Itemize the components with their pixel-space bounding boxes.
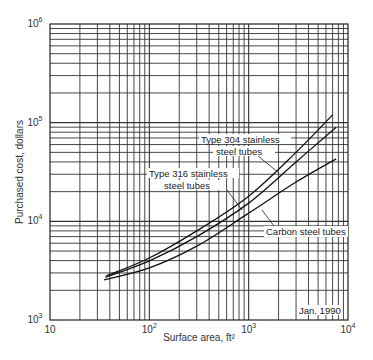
- y-axis-ticks: 103104105106: [27, 16, 42, 325]
- y-axis-label: Purchased cost, dollars: [14, 120, 25, 224]
- y-tick-label: 105: [27, 115, 42, 128]
- x-tick-label: 103: [241, 322, 256, 335]
- label-date: Jan. 1990: [299, 305, 341, 316]
- annotation-date: Jan. 1990: [297, 305, 341, 316]
- label-carbon: Carbon steel tubes: [266, 226, 346, 237]
- x-tick-label: 102: [142, 322, 157, 335]
- label-304-line1: Type 304 stainless: [201, 134, 280, 145]
- cost-chart: Type 304 stainless steel tubes Type 316 …: [0, 0, 373, 360]
- label-316-line1: Type 316 stainless: [149, 168, 228, 179]
- x-axis-label: Surface area, ft²: [163, 332, 235, 343]
- y-tick-label: 103: [27, 312, 42, 325]
- y-tick-label: 106: [27, 16, 42, 29]
- y-tick-label: 104: [27, 213, 42, 226]
- annotation-316: Type 316 stainless steel tubes: [147, 168, 242, 211]
- annotation-carbon: Carbon steel tubes: [262, 210, 348, 237]
- label-304-line2: steel tubes: [216, 146, 262, 157]
- x-tick-label: 104: [340, 322, 355, 335]
- label-316-line2: steel tubes: [164, 180, 210, 191]
- x-tick-label: 10: [44, 324, 56, 335]
